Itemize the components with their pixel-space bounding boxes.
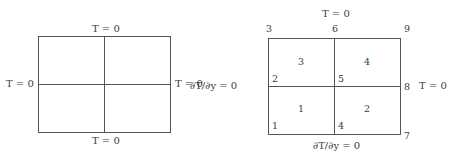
element-4: 4 — [364, 57, 370, 67]
left-left-bc-label: T = 0 — [6, 79, 34, 89]
right-left-bc-label: ∂T/∂y = 0 — [190, 81, 237, 91]
node-2: 2 — [272, 74, 278, 84]
right-top-bc-label: T = 0 — [322, 9, 350, 19]
node-6: 6 — [332, 24, 338, 34]
element-3: 3 — [298, 57, 304, 67]
right-right-bc-label: T = 0 — [419, 81, 447, 91]
node-8: 8 — [404, 82, 410, 92]
node-9: 9 — [404, 24, 410, 34]
element-2: 2 — [364, 104, 370, 114]
node-1: 1 — [272, 121, 278, 131]
node-3: 3 — [266, 24, 272, 34]
left-mesh — [39, 37, 171, 133]
mesh-lines — [0, 0, 452, 157]
left-top-bc-label: T = 0 — [92, 24, 120, 34]
element-1: 1 — [298, 104, 304, 114]
left-bottom-bc-label: T = 0 — [92, 136, 120, 146]
node-7: 7 — [404, 131, 410, 141]
node-5: 5 — [338, 74, 344, 84]
right-mesh — [269, 39, 401, 135]
right-bottom-bc-label: ∂T/∂y = 0 — [313, 141, 360, 151]
node-4: 4 — [338, 121, 344, 131]
